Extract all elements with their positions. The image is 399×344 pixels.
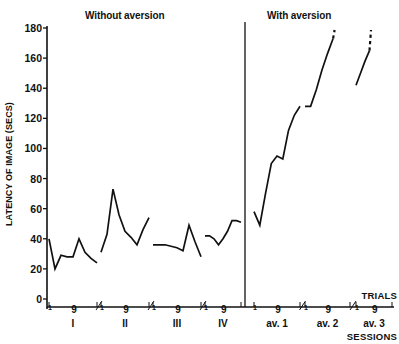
axis-ticks <box>43 28 392 310</box>
chart-root: Without aversion With aversion LATENCY O… <box>0 0 399 344</box>
data-lines <box>49 30 371 269</box>
axis-lines <box>47 22 394 309</box>
plot-canvas <box>0 0 399 344</box>
